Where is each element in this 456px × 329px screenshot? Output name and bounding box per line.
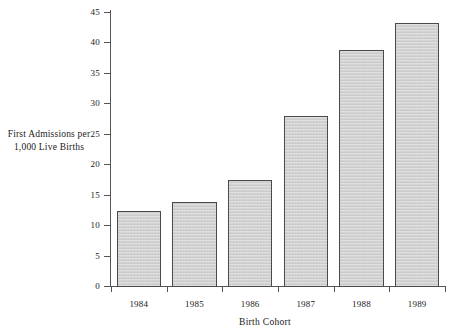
x-tick-label-1989: 1989 <box>387 300 447 309</box>
bar-1987 <box>284 116 329 287</box>
bar-1984 <box>117 211 162 287</box>
y-tick-label-5: 5 <box>72 252 100 261</box>
x-tick-label-1984: 1984 <box>109 300 169 309</box>
bar-1986 <box>228 180 273 287</box>
bars-layer <box>110 10 445 287</box>
y-tick-label-25: 25 <box>72 130 100 139</box>
y-tick-label-10: 10 <box>72 221 100 230</box>
x-tick-label-1986: 1986 <box>220 300 280 309</box>
x-tick-end <box>445 286 446 292</box>
bar-1985 <box>172 202 217 287</box>
x-tick-label-1987: 1987 <box>276 300 336 309</box>
y-tick-label-40: 40 <box>72 38 100 47</box>
y-tick-label-0: 0 <box>72 282 100 291</box>
x-tick-label-1988: 1988 <box>332 300 392 309</box>
bar-1988 <box>339 50 384 287</box>
x-axis-title: Birth Cohort <box>175 317 355 327</box>
y-tick-label-35: 35 <box>72 69 100 78</box>
y-tick-label-20: 20 <box>72 160 100 169</box>
y-axis-title-line-2: 1,000 Live Births <box>0 141 98 154</box>
bar-1989 <box>395 23 440 287</box>
y-tick-label-30: 30 <box>72 99 100 108</box>
y-tick-label-15: 15 <box>72 191 100 200</box>
bar-chart: First Admissions per 1,000 Live Births 0… <box>0 0 456 329</box>
y-tick-label-45: 45 <box>72 8 100 17</box>
x-tick-label-1985: 1985 <box>165 300 225 309</box>
